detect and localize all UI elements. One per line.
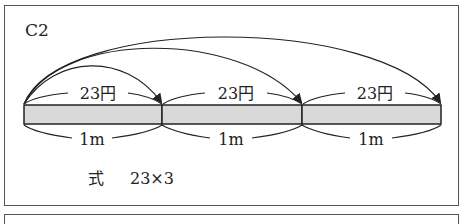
length-label-2: 1m (218, 130, 243, 149)
price-label-3: 23円 (357, 84, 393, 103)
problem-label: C2 (25, 20, 49, 40)
price-label-1: 23円 (80, 84, 116, 103)
tape-segment-3 (302, 105, 441, 124)
tape-diagram: C2 23円 23円 23円 1m 1m 1m 式 23×3 (0, 0, 463, 224)
formula-expression: 23×3 (130, 169, 174, 188)
tape-segment-1 (24, 105, 162, 124)
length-label-3: 1m (358, 130, 383, 149)
formula-prefix: 式 (88, 169, 104, 188)
length-label-1: 1m (79, 130, 104, 149)
tape-segment-2 (162, 105, 302, 124)
price-label-2: 23円 (218, 84, 254, 103)
arc-2-arrow (24, 48, 301, 104)
